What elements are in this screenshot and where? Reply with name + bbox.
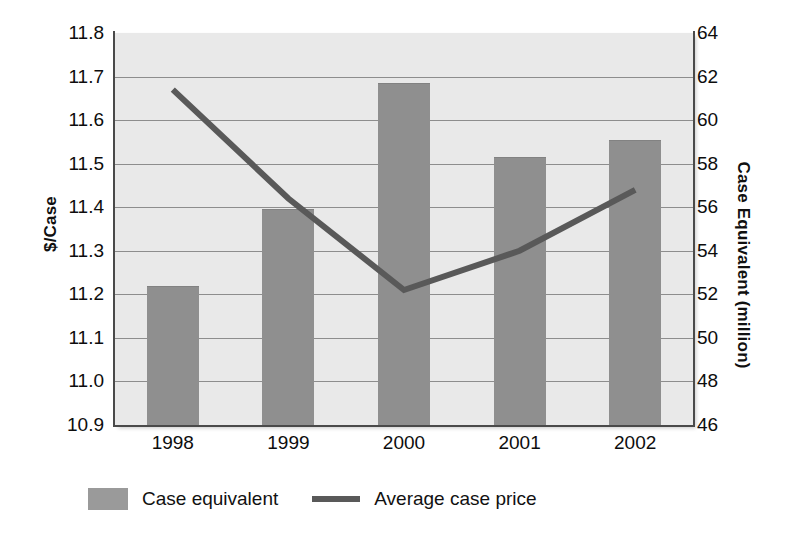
x-tick-label: 2000 [369, 432, 439, 454]
plot-bottom-spine [113, 425, 695, 427]
right-axis-tick-labels: 64626058565452504846 [697, 33, 777, 425]
x-tick-label: 2001 [485, 432, 555, 454]
bar [494, 157, 546, 425]
left-tick-label: 11.4 [68, 197, 104, 216]
x-tick-label: 1998 [138, 432, 208, 454]
x-tick-label: 1999 [253, 432, 323, 454]
right-tick-label: 52 [697, 284, 718, 303]
left-tick-label: 10.9 [67, 415, 104, 434]
left-tick-label: 11.1 [68, 328, 104, 347]
right-tick-label: 54 [697, 241, 718, 260]
bar [262, 209, 314, 425]
left-tick-label: 11.6 [68, 110, 104, 129]
left-tick-label: 11.0 [68, 371, 104, 390]
left-tick-label: 11.8 [68, 23, 104, 42]
legend-item-average-case-price: Average case price [312, 488, 536, 510]
left-axis-tick-labels: 11.811.711.611.511.411.311.211.111.010.9 [20, 33, 104, 425]
bar [147, 286, 199, 425]
right-tick-label: 60 [697, 110, 718, 129]
left-tick-label: 11.5 [68, 154, 104, 173]
legend-label-average-case-price: Average case price [374, 488, 536, 510]
right-tick-label: 56 [697, 197, 718, 216]
x-tick-label: 2002 [600, 432, 670, 454]
chart-figure: $/Case Case Equivalent (million) 11.811.… [0, 0, 791, 534]
legend-label-case-equivalent: Case equivalent [142, 488, 278, 510]
plot-left-spine [113, 31, 115, 427]
bar [609, 140, 661, 425]
left-tick-label: 11.7 [68, 67, 104, 86]
left-tick-label: 11.2 [68, 284, 104, 303]
right-tick-label: 46 [697, 415, 718, 434]
bar [378, 83, 430, 425]
line-swatch-icon [312, 496, 360, 502]
bar-swatch-icon [88, 488, 128, 510]
legend-item-case-equivalent: Case equivalent [88, 488, 278, 510]
right-tick-label: 50 [697, 328, 718, 347]
plot-area [115, 33, 693, 425]
right-tick-label: 62 [697, 67, 718, 86]
right-tick-label: 64 [697, 23, 718, 42]
x-axis-tick-labels: 19981999200020012002 [115, 432, 693, 460]
right-tick-label: 58 [697, 154, 718, 173]
chart-legend: Case equivalent Average case price [88, 482, 688, 516]
left-tick-label: 11.3 [68, 241, 104, 260]
right-tick-label: 48 [697, 371, 718, 390]
plot-right-spine [693, 31, 695, 427]
gridline [115, 77, 693, 78]
